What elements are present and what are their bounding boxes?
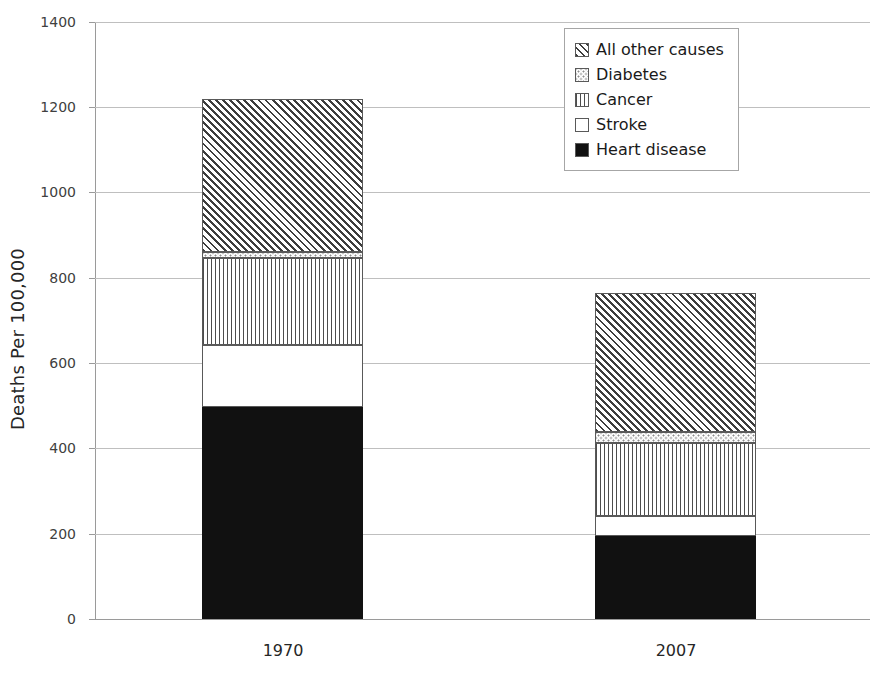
diagonal-hatch-swatch-icon bbox=[575, 43, 589, 57]
plot-area bbox=[95, 22, 870, 619]
chart-legend: All other causes Diabetes Cancer Stroke … bbox=[564, 28, 739, 171]
legend-item-heart-disease[interactable]: Heart disease bbox=[575, 137, 724, 162]
light-dots-swatch-icon bbox=[575, 68, 589, 82]
solid-black-swatch-icon bbox=[575, 143, 589, 157]
legend-label-heart-disease: Heart disease bbox=[596, 142, 706, 158]
x-tick-label-2007: 2007 bbox=[656, 641, 697, 660]
legend-item-stroke[interactable]: Stroke bbox=[575, 112, 724, 137]
legend-item-cancer[interactable]: Cancer bbox=[575, 87, 724, 112]
bar-2007-segment-all-other-causes[interactable] bbox=[595, 293, 756, 432]
bar-2007-segment-diabetes[interactable] bbox=[595, 432, 756, 443]
vertical-stripes-swatch-icon bbox=[575, 93, 589, 107]
y-tick-label-800: 800 bbox=[14, 270, 76, 286]
y-tick-label-200: 200 bbox=[14, 526, 76, 542]
y-tick-label-1400: 1400 bbox=[14, 14, 76, 30]
gridline-baseline-0 bbox=[95, 619, 870, 620]
bar-2007-segment-stroke[interactable] bbox=[595, 516, 756, 536]
white-empty-swatch-icon bbox=[575, 118, 589, 132]
legend-label-all-other-causes: All other causes bbox=[596, 42, 724, 58]
y-tick-label-1000: 1000 bbox=[14, 184, 76, 200]
y-tick-label-400: 400 bbox=[14, 440, 76, 456]
legend-label-diabetes: Diabetes bbox=[596, 67, 667, 83]
bar-1970-segment-stroke[interactable] bbox=[202, 345, 363, 407]
chart-container: Deaths Per 100,000 1400 1200 1000 800 60… bbox=[0, 0, 886, 678]
y-tick-label-0: 0 bbox=[14, 611, 76, 627]
legend-item-diabetes[interactable]: Diabetes bbox=[575, 62, 724, 87]
y-tick-label-600: 600 bbox=[14, 355, 76, 371]
legend-label-cancer: Cancer bbox=[596, 92, 652, 108]
legend-item-all-other-causes[interactable]: All other causes bbox=[575, 37, 724, 62]
bar-1970-segment-heart-disease[interactable] bbox=[202, 407, 363, 619]
y-tick-label-1200: 1200 bbox=[14, 99, 76, 115]
bar-2007-segment-cancer[interactable] bbox=[595, 443, 756, 516]
bar-1970[interactable] bbox=[202, 22, 363, 619]
bar-2007-segment-heart-disease[interactable] bbox=[595, 536, 756, 619]
bar-1970-segment-cancer[interactable] bbox=[202, 258, 363, 345]
x-tick-label-1970: 1970 bbox=[263, 641, 304, 660]
bar-1970-segment-all-other-causes[interactable] bbox=[202, 99, 363, 252]
legend-label-stroke: Stroke bbox=[596, 117, 647, 133]
